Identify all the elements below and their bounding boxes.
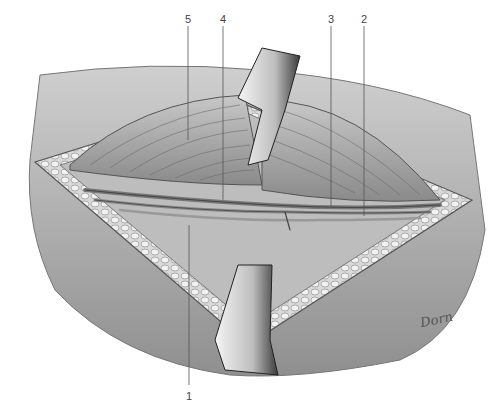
label-5: 5 — [185, 13, 191, 25]
label-2: 2 — [361, 13, 367, 25]
illustration — [0, 0, 496, 413]
label-1: 1 — [186, 390, 192, 402]
label-4: 4 — [220, 13, 226, 25]
label-3: 3 — [328, 13, 334, 25]
